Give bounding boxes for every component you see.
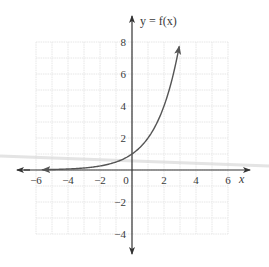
y-axis-label: y = f(x) (140, 14, 177, 28)
x-tick-label: 0 (123, 174, 129, 186)
y-tick-label: 6 (121, 68, 127, 80)
exponential-function-graph: −6−4−202468642−2−4 y = f(x) x (0, 0, 269, 267)
function-curve (42, 46, 179, 169)
x-tick-label: −2 (94, 174, 106, 186)
y-tick-label: −4 (114, 228, 126, 240)
y-tick-label: 8 (121, 36, 127, 48)
y-tick-label: −2 (114, 196, 126, 208)
artifact-band (0, 156, 269, 166)
x-tick-label: −6 (30, 174, 42, 186)
x-axis-label: x (238, 172, 245, 186)
x-tick-label: −4 (62, 174, 74, 186)
x-tick-label: 6 (225, 174, 231, 186)
x-tick-label: 2 (161, 174, 167, 186)
x-tick-label: 4 (193, 174, 199, 186)
y-tick-label: 2 (121, 132, 127, 144)
y-tick-label: 4 (121, 100, 127, 112)
